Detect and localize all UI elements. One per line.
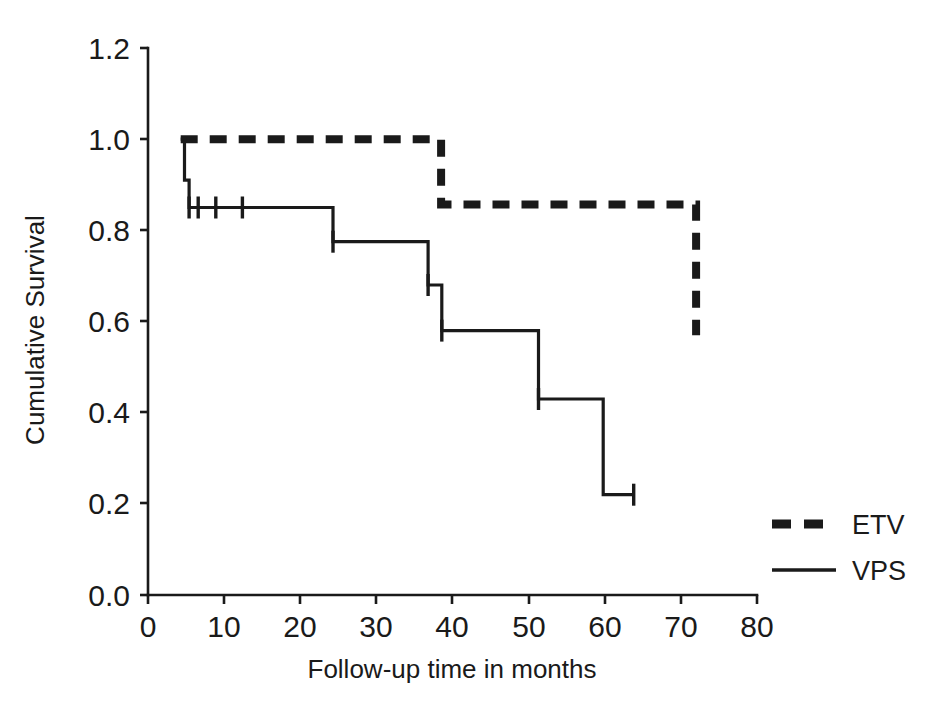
chart-svg: 1.2 1.0 0.8 0.6 0.4 0.2 0.0 0 10 20 30 — [0, 0, 935, 713]
y-tick-label-0.6: 0.6 — [88, 305, 130, 338]
series-line-etv — [181, 139, 696, 335]
x-tick-marks — [148, 595, 757, 604]
axes-group — [148, 48, 757, 595]
x-axis-title: Follow-up time in months — [308, 654, 597, 684]
legend-label-vps: VPS — [852, 556, 906, 586]
x-tick-label-80: 80 — [740, 610, 773, 643]
series-group — [181, 139, 696, 506]
x-tick-label-10: 10 — [207, 610, 240, 643]
kaplan-meier-chart: 1.2 1.0 0.8 0.6 0.4 0.2 0.0 0 10 20 30 — [0, 0, 935, 713]
x-tick-labels: 0 10 20 30 40 50 60 70 80 — [140, 610, 774, 643]
series-line-vps — [181, 139, 634, 495]
y-tick-labels: 1.2 1.0 0.8 0.6 0.4 0.2 0.0 — [88, 32, 130, 612]
x-tick-label-0: 0 — [140, 610, 157, 643]
y-axis-title: Cumulative Survival — [20, 215, 50, 445]
y-tick-label-1.2: 1.2 — [88, 32, 130, 65]
y-tick-label-0.4: 0.4 — [88, 396, 130, 429]
legend-label-etv: ETV — [852, 510, 905, 540]
y-tick-label-0.0: 0.0 — [88, 579, 130, 612]
x-tick-label-50: 50 — [512, 610, 545, 643]
x-tick-label-30: 30 — [359, 610, 392, 643]
x-tick-label-20: 20 — [283, 610, 316, 643]
x-tick-label-40: 40 — [435, 610, 468, 643]
legend: ETV VPS — [772, 510, 906, 586]
x-tick-label-70: 70 — [664, 610, 697, 643]
x-tick-label-60: 60 — [588, 610, 621, 643]
y-tick-label-0.8: 0.8 — [88, 214, 130, 247]
y-tick-label-1.0: 1.0 — [88, 123, 130, 156]
y-tick-label-0.2: 0.2 — [88, 487, 130, 520]
